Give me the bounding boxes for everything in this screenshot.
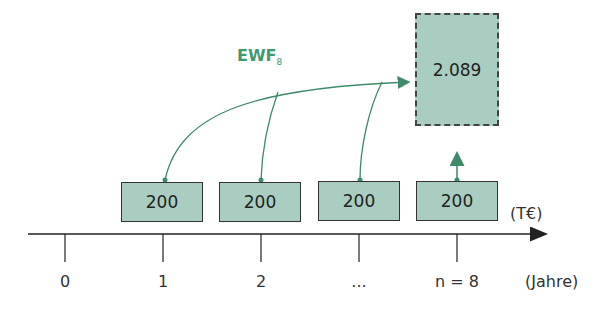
future-value: 2.089 [433, 60, 482, 80]
payment-box: 200 [219, 182, 301, 222]
future-value-box: 2.089 [415, 13, 499, 126]
tick-label: 0 [45, 272, 85, 291]
factor-sub: 8 [277, 57, 283, 67]
diagram-canvas [0, 0, 603, 310]
factor-main: EWF [237, 46, 277, 65]
payment-value: 200 [146, 192, 178, 212]
compound-arrow [165, 82, 408, 180]
payment-value: 200 [343, 191, 375, 211]
tick-label: 1 [143, 272, 183, 291]
payment-box: 200 [318, 181, 400, 221]
payment-box: 200 [121, 182, 203, 222]
unit-time: (Jahre) [525, 272, 578, 291]
tick-label: 2 [241, 272, 281, 291]
factor-label: EWF8 [237, 46, 282, 67]
tick-label: ... [339, 272, 379, 291]
unit-amount: (T€) [510, 204, 542, 223]
payment-box: 200 [416, 181, 498, 221]
payment-value: 200 [441, 191, 473, 211]
payment-value: 200 [244, 192, 276, 212]
tick-label: n = 8 [422, 272, 492, 291]
